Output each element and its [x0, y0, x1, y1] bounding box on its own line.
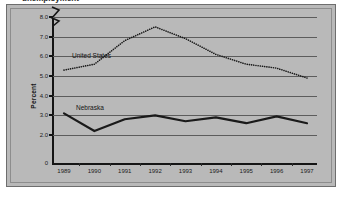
y-tick-label: 6.0 [40, 53, 48, 59]
x-tick-label: 1990 [88, 168, 101, 174]
x-tick-label: 1991 [118, 168, 131, 174]
y-tick-label: 3.0 [40, 112, 48, 118]
x-tick-label: 1995 [240, 168, 253, 174]
chart-title-clipped: unemployment [0, 0, 351, 3]
y-axis-label: Percent [30, 83, 37, 108]
x-tick-label: 1993 [179, 168, 192, 174]
chart-figure: unemployment Percent 8.07.06.05.04.03.02… [0, 0, 351, 202]
y-tick-label: 7.0 [40, 34, 48, 40]
chart-title-text: unemployment [0, 0, 351, 3]
y-tick-label: 8.0 [40, 14, 48, 20]
series-label-united-states: United States [72, 52, 111, 59]
x-tick-label: 1989 [57, 168, 70, 174]
x-tick-label: 1994 [209, 168, 222, 174]
series-lines [52, 17, 317, 165]
series-label-nebraska: Nebraska [76, 104, 104, 111]
plot-area: 8.07.06.05.04.03.02.00 19891990199119921… [52, 17, 317, 165]
x-tick-label: 1992 [148, 168, 161, 174]
y-tick-label: 5.0 [40, 73, 48, 79]
series-line [64, 113, 307, 131]
x-tick-label: 1997 [300, 168, 313, 174]
y-tick-label: 2.0 [40, 132, 48, 138]
figure-panel: Percent 8.07.06.05.04.03.02.00 198919901… [6, 4, 336, 187]
x-tick-label: 1996 [270, 168, 283, 174]
y-tick-label-zero: 0 [45, 160, 48, 166]
y-tick-label: 4.0 [40, 93, 48, 99]
